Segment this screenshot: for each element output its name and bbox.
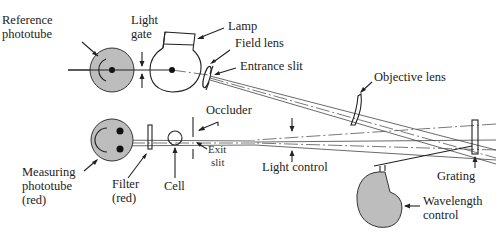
light-control-arrows bbox=[290, 118, 295, 162]
objective-lens bbox=[351, 94, 361, 125]
label-reference-phototube: Reference bbox=[2, 13, 53, 27]
label-field-lens: Field lens bbox=[235, 36, 284, 50]
label-cell: Cell bbox=[164, 179, 185, 193]
label-grating: Grating bbox=[437, 169, 476, 183]
label-reference-phototube-2: phototube bbox=[2, 27, 52, 41]
spectrophotometer-diagram: Reference phototube Light gate Lamp Fiel… bbox=[0, 0, 502, 239]
label-exit-slit-2: slit bbox=[211, 156, 224, 168]
label-exit-slit: Exit bbox=[208, 143, 226, 155]
measuring-phototube bbox=[91, 119, 133, 161]
label-light-control: Light control bbox=[262, 160, 328, 174]
label-measuring-phototube-2: phototube bbox=[22, 179, 72, 193]
label-wavelength-control-2: control bbox=[423, 208, 459, 222]
light-beams bbox=[68, 70, 496, 164]
label-wavelength-control: Wavelength bbox=[423, 194, 483, 208]
occluder-arrow bbox=[198, 122, 218, 131]
field-lens bbox=[201, 66, 212, 89]
lamp bbox=[150, 32, 201, 92]
label-occluder: Occluder bbox=[206, 103, 253, 117]
label-filter: Filter bbox=[112, 177, 140, 191]
label-light-gate: Light bbox=[131, 13, 159, 27]
label-filter-2: (red) bbox=[112, 191, 136, 205]
label-entrance-slit: Entrance slit bbox=[240, 59, 303, 73]
label-objective-lens: Objective lens bbox=[374, 70, 446, 84]
reference-phototube bbox=[68, 48, 134, 92]
label-lamp: Lamp bbox=[228, 19, 257, 33]
label-light-gate-2: gate bbox=[131, 27, 152, 41]
label-measuring-phototube: Measuring bbox=[22, 165, 76, 179]
label-measuring-phototube-3: (red) bbox=[22, 193, 46, 207]
